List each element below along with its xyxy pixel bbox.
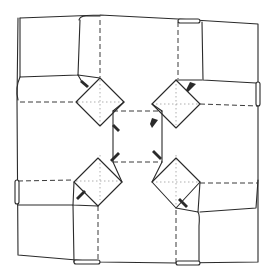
center-square [113,102,162,182]
existing-creases [76,80,200,205]
valley-folds [18,20,258,263]
corner-flap-bottom-left [18,205,100,264]
corner-flap-top-left [17,18,82,100]
side-roll-left [15,180,19,204]
outer-square [17,15,258,263]
diamond-top-left [76,75,124,132]
corner-flap-bottom-right [176,180,258,265]
corner-flap-top-right [202,22,260,106]
diamond-bottom-left [73,152,122,206]
origami-diagram [0,0,271,272]
fold-diagram-svg [0,0,271,272]
